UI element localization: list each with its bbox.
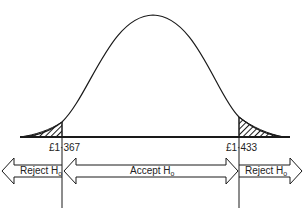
right-reject-label: Reject Ho [245,165,287,177]
hypothesis-test-diagram: £1·367 £1·433 Reject Ho Accept Ho Reject… [0,0,307,212]
left-rejection-tail [20,122,62,137]
right-rejection-tail [239,117,284,137]
lower-critical-label: £1·367 [49,142,81,153]
upper-critical-label: £1·433 [226,142,258,153]
accept-label: Accept Ho [130,165,175,177]
normal-curve [20,15,284,137]
left-reject-label: Reject Ho [20,165,62,177]
